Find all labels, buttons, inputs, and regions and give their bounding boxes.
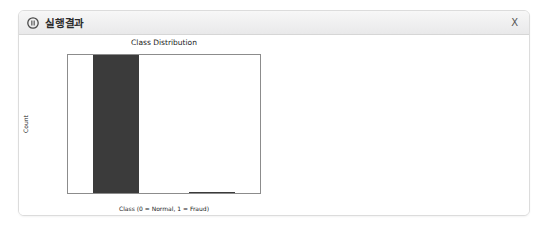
chart-bar — [93, 55, 138, 193]
class-distribution-chart: Class Distribution 050000100000150000200… — [19, 35, 309, 215]
panel-title: 실행결과 — [45, 15, 84, 30]
chart-y-tick-mark — [67, 120, 68, 121]
chart-plot-area: 05000010000015000020000025000001 — [67, 54, 261, 194]
chart-y-tick-mark — [67, 96, 68, 97]
execution-result-panel: 실행결과 X Class Distribution 05000010000015… — [18, 10, 530, 216]
media-circle-icon — [27, 17, 39, 29]
panel-content-area: Class Distribution 050000100000150000200… — [19, 35, 529, 215]
chart-x-tick-mark — [116, 193, 117, 194]
close-icon[interactable]: X — [508, 16, 521, 30]
chart-y-tick-mark — [67, 169, 68, 170]
chart-title: Class Distribution — [67, 38, 261, 47]
chart-x-axis-label: Class (0 = Normal, 1 = Fraud) — [67, 205, 261, 212]
panel-title-bar: 실행결과 X — [19, 11, 529, 35]
chart-y-tick-mark — [67, 144, 68, 145]
chart-y-axis-label: Count — [22, 115, 29, 133]
chart-y-tick-mark — [67, 72, 68, 73]
chart-bar — [189, 192, 234, 193]
chart-y-tick-mark — [67, 193, 68, 194]
chart-x-tick-mark — [212, 193, 213, 194]
